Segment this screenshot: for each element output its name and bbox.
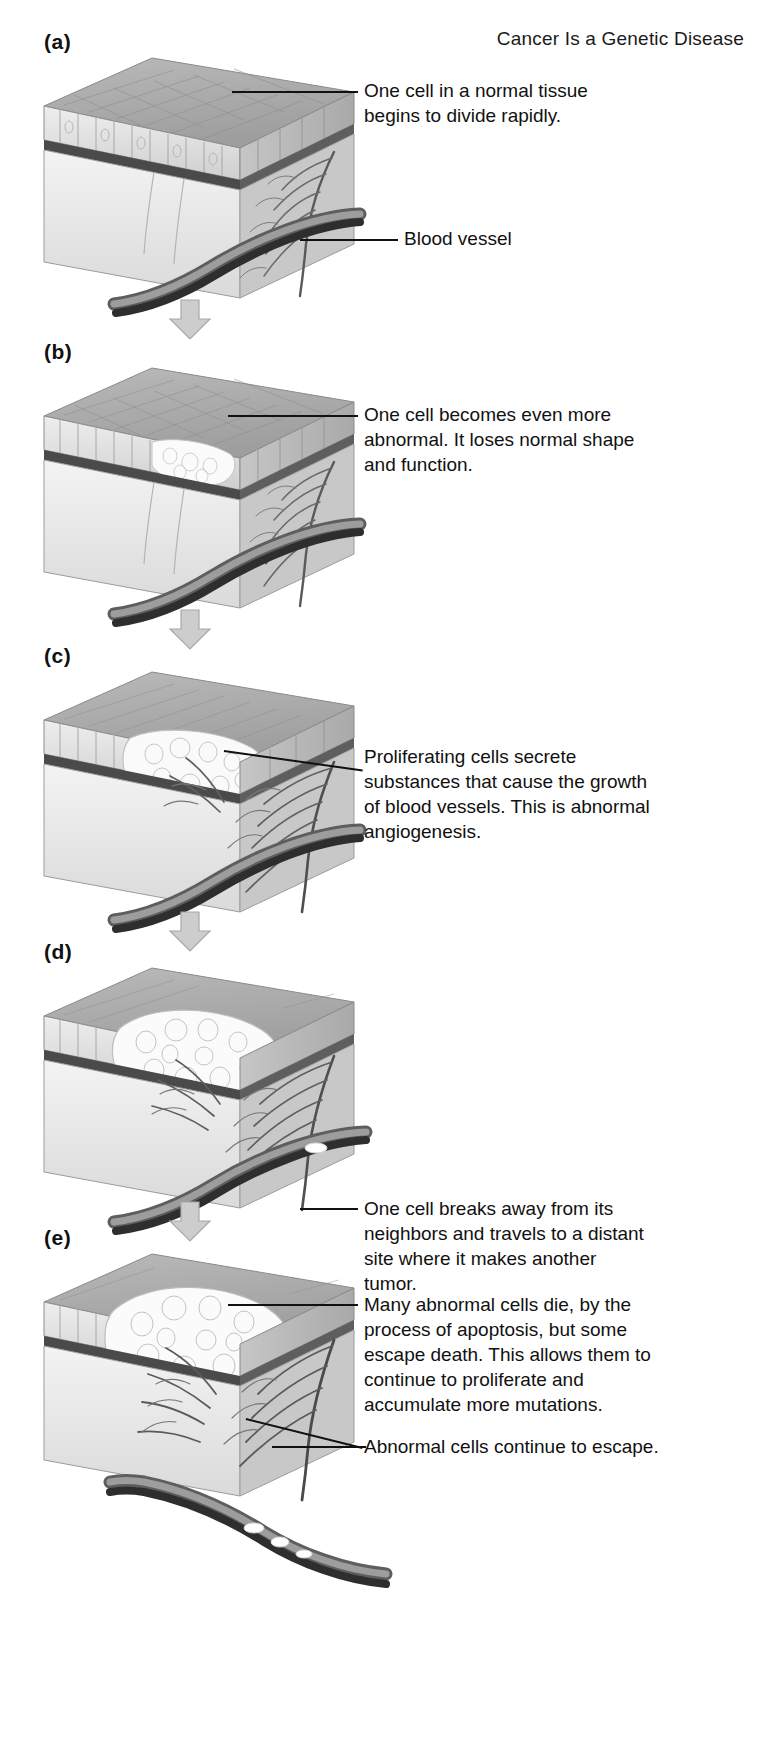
panel-e-leader-1 xyxy=(228,1304,358,1306)
panel-a-blood-vessel xyxy=(108,208,368,318)
panel-e: (e) xyxy=(0,1218,782,1759)
panel-b-note-1: One cell becomes even more abnormal. It … xyxy=(364,402,704,477)
panel-d: (d) xyxy=(0,940,782,1235)
panel-b-blood-vessel xyxy=(108,518,368,628)
panel-e-blood-vessel xyxy=(104,1454,394,1654)
figure-canvas: Cancer Is a Genetic Disease (a) xyxy=(0,0,782,1759)
panel-a-note-1: One cell in a normal tissue begins to di… xyxy=(364,78,694,128)
panel-a-leader-2 xyxy=(300,239,398,241)
panel-b: (b) xyxy=(0,330,782,640)
panel-b-leader-1 xyxy=(228,415,358,417)
panel-e-leader-2b xyxy=(272,1446,366,1448)
panel-d-leader-1 xyxy=(300,1208,358,1210)
panel-e-note-2: Abnormal cells continue to escape. xyxy=(364,1434,724,1459)
panel-a: (a) xyxy=(0,0,782,330)
panel-c-blood-vessel xyxy=(108,824,368,934)
panel-e-note-1: Many abnormal cells die, by the process … xyxy=(364,1292,704,1417)
panel-a-leader-1 xyxy=(232,91,358,93)
panel-a-note-2: Blood vessel xyxy=(404,226,734,251)
panel-c: (c) xyxy=(0,640,782,940)
panel-c-note-1: Proliferating cells secrete substances t… xyxy=(364,744,704,844)
